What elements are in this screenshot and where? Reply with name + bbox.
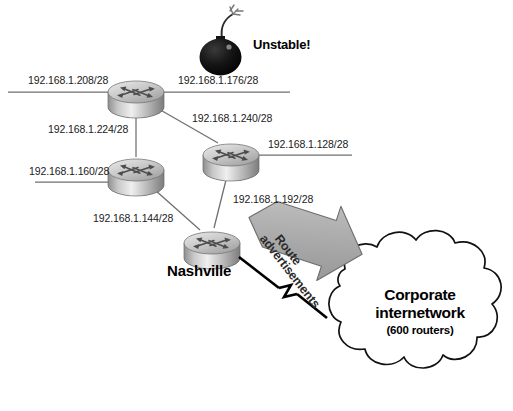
router-top-left[interactable] — [108, 81, 164, 118]
network-diagram-canvas: 192.168.1.208/28 192.168.1.176/28 192.16… — [0, 0, 513, 411]
link-subnet-144 — [155, 190, 200, 230]
router-mid-left[interactable] — [108, 159, 164, 196]
cloud-subtitle: (600 routers) — [340, 324, 500, 336]
cloud-title-line2: internetwork — [340, 304, 500, 322]
subnet-label-144: 192.168.1.144/28 — [93, 212, 173, 224]
cloud-title: Corporate internetwork — [340, 286, 500, 322]
subnet-label-192: 192.168.1.192/28 — [233, 193, 313, 205]
diagram-vector-layer — [0, 0, 513, 411]
unstable-label: Unstable! — [253, 37, 310, 52]
subnet-label-128: 192.168.1.128/28 — [268, 138, 348, 150]
subnet-label-208: 192.168.1.208/28 — [28, 74, 108, 86]
nashville-label: Nashville — [167, 262, 231, 279]
router-mid-right[interactable] — [203, 144, 259, 181]
subnet-label-240: 192.168.1.240/28 — [192, 112, 272, 124]
bomb-icon — [200, 5, 244, 76]
subnet-label-160: 192.168.1.160/28 — [29, 165, 109, 177]
cloud-title-line1: Corporate — [340, 286, 500, 304]
subnet-label-176: 192.168.1.176/28 — [178, 74, 258, 86]
subnet-label-224: 192.168.1.224/28 — [48, 123, 128, 135]
